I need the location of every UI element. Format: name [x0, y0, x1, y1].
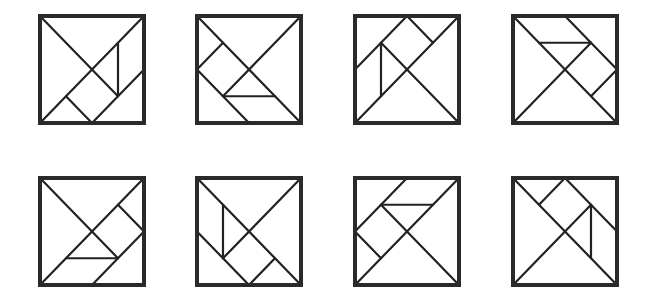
tangram-square-7	[353, 176, 461, 287]
tangram-edge	[197, 43, 223, 70]
tangram-square-8	[511, 176, 619, 287]
tangram-edge	[591, 70, 617, 97]
tangram-drawing	[353, 176, 461, 287]
tangram-square-1	[38, 14, 146, 125]
tangram-drawing	[353, 14, 461, 125]
tangram-edge	[355, 232, 381, 259]
tangram-drawing	[195, 14, 303, 125]
tangram-square-3	[353, 14, 461, 125]
tangram-drawing	[511, 176, 619, 287]
tangram-square-4	[511, 14, 619, 125]
tangram-drawing	[511, 14, 619, 125]
tangram-square-5	[38, 176, 146, 287]
tangram-drawing	[38, 14, 146, 125]
tangram-edge	[407, 16, 433, 43]
tangram-square-2	[195, 14, 303, 125]
tangram-edge	[118, 205, 144, 232]
tangram-edge	[539, 178, 565, 205]
tangram-square-6	[195, 176, 303, 287]
tangram-drawing	[195, 176, 303, 287]
tangram-edge	[249, 258, 275, 285]
tangram-edge	[66, 96, 92, 123]
tangram-drawing	[38, 176, 146, 287]
